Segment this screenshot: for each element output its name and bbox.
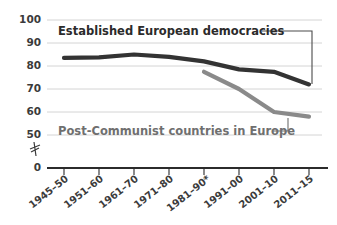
x-tick-label-7: 2011–15 <box>272 173 316 210</box>
y-axis-break-icon <box>30 142 40 156</box>
series-line-established-democracies <box>64 55 309 85</box>
y-tick-label-50: 50 <box>26 128 41 140</box>
series-label-established-democracies: Established European democracies <box>58 24 284 38</box>
y-tick-label-70: 70 <box>26 82 41 94</box>
y-tick-label-90: 90 <box>26 36 41 48</box>
y-tick-label-100: 100 <box>19 13 41 25</box>
y-tick-label-80: 80 <box>26 59 41 71</box>
series-label-post-communist: Post-Communist countries in Europe <box>58 124 295 138</box>
y-tick-label-60: 60 <box>26 105 41 117</box>
x-axis-labels: 1945–50 1951–60 1961–70 1971–80 1981–90*… <box>27 172 316 213</box>
y-tick-label-0: 0 <box>34 161 41 173</box>
line-chart: 100 90 80 70 60 50 0 1945–50 1 <box>0 0 337 225</box>
chart-container: 100 90 80 70 60 50 0 1945–50 1 <box>0 0 337 225</box>
